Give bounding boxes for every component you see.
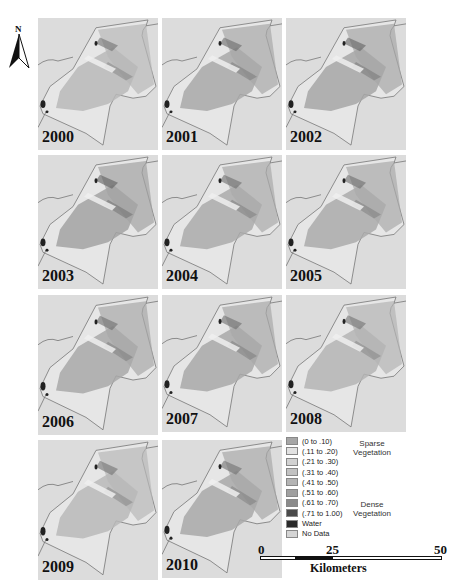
legend-item-label: No Data — [302, 529, 330, 538]
legend-group-label: Vegetation — [342, 509, 402, 518]
legend-swatch — [286, 478, 298, 486]
legend-item: (.21 to .30) — [286, 457, 450, 467]
map-panel: 2001 — [162, 18, 282, 150]
panel-year-label: 2000 — [42, 128, 74, 146]
legend-item-label: (.71 to 1.00) — [302, 509, 342, 518]
legend: (0 to .10) (.11 to .20) (.21 to .30) (.3… — [286, 436, 450, 539]
legend-item-label: (.61 to .70) — [302, 498, 338, 507]
scale-bar: 0 25 50 Kilometers — [258, 542, 450, 582]
legend-swatch — [286, 499, 298, 507]
map-panel: 2000 — [38, 18, 158, 150]
legend-item: Water — [286, 518, 450, 528]
scale-unit: Kilometers — [310, 561, 367, 576]
scale-segment — [260, 556, 296, 560]
panel-year-label: 2002 — [290, 128, 322, 146]
panel-year-label: 2008 — [290, 410, 322, 428]
legend-item-label: (.21 to .30) — [302, 457, 338, 466]
scale-segment — [296, 556, 332, 560]
legend-item-label: (.41 to .50) — [302, 478, 338, 487]
legend-item-label: Water — [302, 519, 322, 528]
north-label: N — [15, 24, 22, 34]
panel-year-label: 2009 — [42, 558, 74, 576]
north-arrow: N — [6, 24, 32, 70]
legend-swatch — [286, 468, 298, 476]
map-panel: 2009 — [38, 440, 158, 580]
legend-swatch — [286, 489, 298, 497]
map-panel: 2004 — [162, 155, 282, 289]
legend-item: (.31 to .40) — [286, 467, 450, 477]
legend-item: No Data — [286, 529, 450, 539]
legend-swatch — [286, 437, 298, 445]
legend-group-label: Vegetation — [342, 448, 402, 457]
panel-year-label: 2007 — [166, 410, 198, 428]
map-panel: 2008 — [286, 295, 406, 432]
map-panel: 2007 — [162, 295, 282, 432]
legend-item-label: (0 to .10) — [302, 437, 332, 446]
legend-item: (.41 to .50) — [286, 477, 450, 487]
map-panel: 2003 — [38, 155, 158, 289]
legend-group-dense: Dense Vegetation — [342, 500, 402, 518]
legend-swatch — [286, 458, 298, 466]
north-arrow-icon — [6, 34, 32, 70]
map-panel: 2006 — [38, 295, 158, 435]
legend-item-label: (.51 to .60) — [302, 488, 338, 497]
legend-item: (.51 to .60) — [286, 487, 450, 497]
map-panel: 2002 — [286, 18, 406, 150]
legend-group-label: Sparse — [342, 439, 402, 448]
legend-group-sparse: Sparse Vegetation — [342, 439, 402, 457]
panel-year-label: 2004 — [166, 267, 198, 285]
panel-year-label: 2006 — [42, 413, 74, 431]
legend-item-label: (.11 to .20) — [302, 447, 338, 456]
panel-year-label: 2005 — [290, 267, 322, 285]
legend-swatch — [286, 509, 298, 517]
map-panel: 2005 — [286, 155, 406, 289]
scale-segment — [332, 556, 442, 560]
legend-group-label: Dense — [342, 500, 402, 509]
legend-swatch — [286, 447, 298, 455]
legend-swatch — [286, 530, 298, 538]
panel-year-label: 2003 — [42, 267, 74, 285]
panel-year-label: 2010 — [166, 556, 198, 574]
legend-swatch — [286, 520, 298, 528]
legend-item-label: (.31 to .40) — [302, 468, 338, 477]
panel-year-label: 2001 — [166, 128, 198, 146]
